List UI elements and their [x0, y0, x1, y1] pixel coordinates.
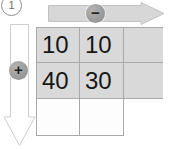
plus-glyph: +	[9, 61, 28, 80]
vertical-arrow-down	[3, 24, 36, 147]
grid-cell-r0c0[interactable]: 10	[36, 27, 80, 63]
grid-cell-r2c1[interactable]	[80, 99, 124, 136]
table-row: 10 10	[36, 27, 163, 63]
grid-cell-r0c1[interactable]: 10	[80, 27, 124, 63]
grid-cell-r1c1[interactable]: 30	[80, 63, 124, 99]
grid-cell-r1c2[interactable]	[124, 63, 163, 99]
plus-circle-icon: +	[9, 61, 28, 80]
grid-cell-r2c0[interactable]	[36, 99, 80, 136]
diagram-canvas: 1 − + 10 10 40 30	[0, 0, 169, 149]
horizontal-arrow-shape	[48, 2, 165, 26]
vertical-arrow-shape	[3, 24, 36, 147]
horizontal-arrow-right	[48, 2, 165, 26]
table-row	[36, 99, 163, 136]
table-row: 40 30	[36, 63, 163, 99]
grid-cell-r0c2[interactable]	[124, 27, 163, 63]
grid-cell-r2c2	[124, 99, 163, 136]
minus-glyph: −	[86, 4, 105, 23]
step-number-badge: 1	[1, 0, 22, 16]
value-grid: 10 10 40 30	[36, 27, 163, 139]
grid-cell-r1c0[interactable]: 40	[36, 63, 80, 99]
minus-circle-icon: −	[86, 4, 105, 23]
